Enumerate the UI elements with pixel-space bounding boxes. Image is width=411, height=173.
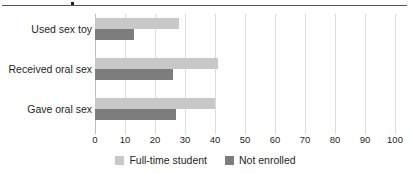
bar-group	[95, 54, 395, 94]
legend-item-full-time-student: Full-time student	[115, 154, 207, 166]
bar-full-time-student	[95, 58, 218, 69]
legend-swatch-full-time-student	[115, 156, 124, 165]
chart-figure: Used sex toy Received oral sex Gave oral…	[0, 0, 411, 173]
bar-group	[95, 14, 395, 54]
x-tick-label: 10	[120, 134, 131, 146]
x-axis-tick-labels: 0 10 20 30 40 50 60 70 80 90 100	[95, 134, 395, 148]
x-tick-label: 100	[387, 134, 403, 146]
bar-not-enrolled	[95, 29, 134, 40]
legend-label: Full-time student	[129, 154, 207, 166]
x-tick-label: 0	[92, 134, 97, 146]
bar-full-time-student	[95, 98, 215, 109]
bar-not-enrolled	[95, 109, 176, 120]
x-tick-label: 80	[330, 134, 341, 146]
bar-group	[95, 94, 395, 134]
y-axis-category-labels: Used sex toy Received oral sex Gave oral…	[0, 14, 92, 134]
header-divider	[2, 5, 407, 6]
x-tick-label: 70	[300, 134, 311, 146]
category-label: Used sex toy	[0, 23, 92, 35]
bar-full-time-student	[95, 18, 179, 29]
plot-area	[95, 14, 395, 134]
x-tick-label: 50	[240, 134, 251, 146]
chart-legend: Full-time student Not enrolled	[0, 152, 411, 168]
legend-swatch-not-enrolled	[225, 156, 234, 165]
x-tick-label: 30	[180, 134, 191, 146]
x-tick-label: 20	[150, 134, 161, 146]
category-label: Gave oral sex	[0, 103, 92, 115]
x-tick-label: 60	[270, 134, 281, 146]
legend-item-not-enrolled: Not enrolled	[225, 154, 296, 166]
bar-not-enrolled	[95, 69, 173, 80]
x-tick-label: 90	[360, 134, 371, 146]
category-label: Received oral sex	[0, 63, 92, 75]
gridline-100	[395, 14, 396, 134]
legend-label: Not enrolled	[239, 154, 296, 166]
x-tick-label: 40	[210, 134, 221, 146]
